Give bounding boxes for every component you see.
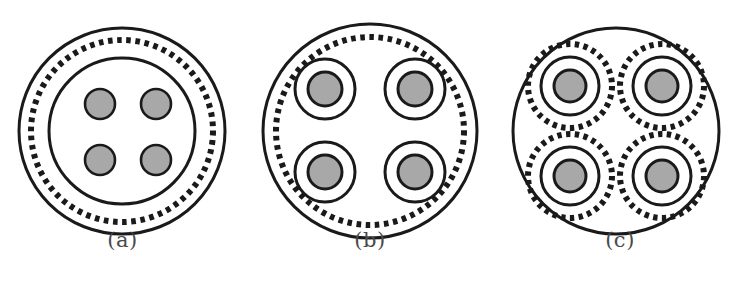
conductor-top-right-core-b xyxy=(398,72,432,106)
inner-sheath-a xyxy=(49,58,195,204)
panel-a-caption: (a) xyxy=(0,228,245,252)
panel-b-group xyxy=(263,24,477,238)
conductor-bottom-right-core-b xyxy=(398,155,432,189)
figure-root: (a) (b) xyxy=(0,0,745,300)
conductor-bottom-right-core-c xyxy=(646,160,678,192)
panel-c-diagram xyxy=(495,0,745,245)
panel-a-group xyxy=(19,28,225,234)
conductor-bottom-left-core-a xyxy=(85,145,115,175)
panel-c: (c) xyxy=(495,0,745,300)
conductor-bottom-right-core-a xyxy=(141,145,171,175)
conductor-top-left-core-c xyxy=(554,70,586,102)
panel-c-group xyxy=(513,28,719,234)
outer-jacket-b xyxy=(263,24,477,238)
panel-b-caption: (b) xyxy=(245,228,495,252)
conductor-top-left-core-a xyxy=(85,89,115,119)
panel-b-diagram xyxy=(245,0,495,245)
conductor-bottom-left-core-b xyxy=(308,155,342,189)
panel-a: (a) xyxy=(0,0,245,300)
conductor-bottom-left-core-c xyxy=(554,160,586,192)
outer-jacket-c xyxy=(513,28,719,234)
panel-a-diagram xyxy=(0,0,245,245)
conductor-top-right-core-c xyxy=(646,70,678,102)
panel-b: (b) xyxy=(245,0,495,300)
panel-c-caption: (c) xyxy=(495,228,745,252)
conductor-top-right-core-a xyxy=(141,89,171,119)
conductor-top-left-core-b xyxy=(308,72,342,106)
